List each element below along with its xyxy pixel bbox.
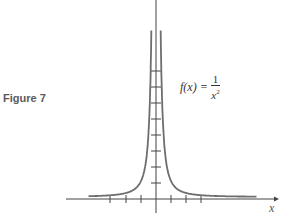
formula-exponent: 2 <box>216 88 220 96</box>
formula-lhs: f(x) = <box>180 80 208 95</box>
x-axis-arrow-icon <box>274 197 279 202</box>
formula-denominator: x2 <box>211 86 219 101</box>
x-axis-label: x <box>269 201 274 216</box>
plot-area <box>0 0 283 224</box>
formula-fraction: 1 x2 <box>211 74 221 101</box>
curve-left-branch <box>89 31 152 197</box>
formula-numerator: 1 <box>211 74 221 86</box>
curve-right-branch <box>161 31 257 197</box>
function-annotation: f(x) = 1 x2 <box>180 74 220 101</box>
